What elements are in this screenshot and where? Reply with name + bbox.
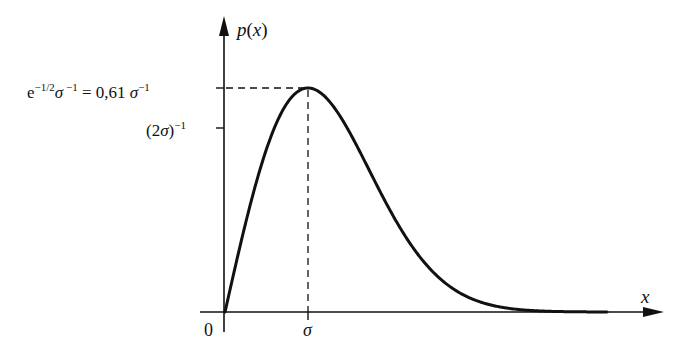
ylabel-x: x [253,19,261,40]
ylabel-p: p [237,19,247,40]
half-open: (2 [146,121,160,140]
half-exp: −1 [174,119,186,131]
peak-exp1: −1/2 [35,81,55,93]
y-axis-label: p(x) [237,20,268,39]
peak-value-label: e−1/2σ −1 = 0,61 σ−1 [27,84,150,101]
density-curve [225,88,607,312]
origin-label: 0 [204,321,213,339]
peak-exp2: −1 [63,81,77,93]
ylabel-close: ) [261,19,267,40]
peak-exp3: −1 [138,81,150,93]
rayleigh-plot [0,0,683,364]
x-axis-arrow-icon [643,307,664,317]
peak-eq: = 0,61 [78,83,130,102]
y-axis-arrow-icon [219,16,229,36]
peak-sigma: σ [55,83,63,102]
peak-sigma2: σ [130,83,138,102]
half-value-label: (2σ)−1 [146,122,186,139]
sigma-tick-label: σ [303,321,312,339]
peak-e: e [27,83,35,102]
half-sigma: σ [160,121,168,140]
x-axis-label: x [641,287,649,306]
